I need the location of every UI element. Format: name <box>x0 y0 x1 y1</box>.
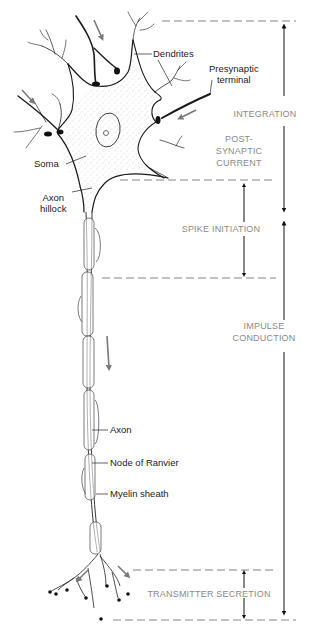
region-impulse-line1: IMPULSE <box>228 320 300 332</box>
label-node-of-ranvier: Node of Ranvier <box>110 457 179 468</box>
neuron-diagram <box>0 0 312 636</box>
flow-arrow-right <box>180 110 196 118</box>
label-axon-hillock: Axon hillock <box>40 192 66 214</box>
region-impulse-conduction: IMPULSE CONDUCTION <box>228 320 300 344</box>
label-presynaptic-terminal: Presynaptic terminal <box>209 63 259 85</box>
terminal-boutons <box>48 584 130 621</box>
myelin-sheath-segments <box>78 218 101 554</box>
flow-arrow-axon <box>107 336 109 368</box>
axon <box>78 212 101 554</box>
soma <box>52 44 160 210</box>
region-post-synaptic-current: POST- SYNAPTIC CURRENT <box>212 133 266 169</box>
label-presynaptic-line1: Presynaptic <box>209 63 259 74</box>
region-spike-initiation: SPIKE INITIATION <box>176 223 266 235</box>
flow-arrow-top <box>94 20 102 38</box>
region-impulse-line2: CONDUCTION <box>228 332 300 344</box>
region-post-synaptic-line2: SYNAPTIC <box>212 145 266 157</box>
region-post-synaptic-line1: POST- <box>212 133 266 145</box>
label-soma: Soma <box>34 158 59 169</box>
flow-arrow-terminal-right <box>118 566 128 576</box>
label-dendrites: Dendrites <box>153 48 194 59</box>
label-axon-hillock-line2: hillock <box>40 203 66 214</box>
label-presynaptic-line2: terminal <box>209 74 259 85</box>
region-post-synaptic-line3: CURRENT <box>212 157 266 169</box>
region-integration: INTEGRATION <box>230 108 300 120</box>
flow-arrow-terminal-left <box>78 570 88 580</box>
leader-dendrites-b <box>158 60 172 86</box>
axon-terminals <box>50 554 120 608</box>
label-axon: Axon <box>110 424 132 435</box>
region-transmitter-secretion: TRANSMITTER SECRETION <box>140 588 278 600</box>
label-myelin-sheath: Myelin sheath <box>110 488 169 499</box>
label-axon-hillock-line1: Axon <box>40 192 66 203</box>
